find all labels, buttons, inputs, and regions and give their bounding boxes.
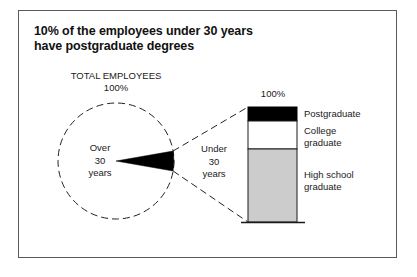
legend-label-college-graduate-line-1: College — [304, 125, 342, 137]
legend-label-high-school-graduate-line-2: graduate — [304, 181, 354, 193]
bar-segment-high-school-graduate — [248, 149, 297, 222]
legend-label-postgraduate: Postgraduate — [304, 108, 361, 120]
pie-slice-label-over-30-line-1: Over — [70, 142, 130, 155]
pie-slice-label-under-30-line-1: Under — [186, 143, 242, 156]
pie-slice-label-over-30-line-3: years — [70, 167, 130, 180]
pie-slice-label-over-30-line-2: 30 — [70, 155, 130, 168]
legend-label-college-graduate: College graduate — [304, 125, 342, 148]
pie-slice-label-under-30: Under 30 years — [186, 143, 242, 181]
bar-segment-postgraduate — [248, 107, 297, 121]
bar-total-label: 100% — [248, 88, 298, 99]
chart-screenshot: 10% of the employees under 30 years have… — [0, 0, 417, 277]
pie-slice-label-over-30: Over 30 years — [70, 142, 130, 180]
chart-graphic — [0, 0, 417, 277]
pie-slice-label-under-30-line-3: years — [186, 168, 242, 181]
pie-slice-label-under-30-line-2: 30 — [186, 156, 242, 169]
bar-segment-college-graduate — [248, 121, 297, 149]
legend-label-high-school-graduate-line-1: High school — [304, 169, 354, 181]
legend-label-college-graduate-line-2: graduate — [304, 137, 342, 149]
legend-label-postgraduate-line-1: Postgraduate — [304, 108, 361, 120]
legend-label-high-school-graduate: High school graduate — [304, 169, 354, 192]
